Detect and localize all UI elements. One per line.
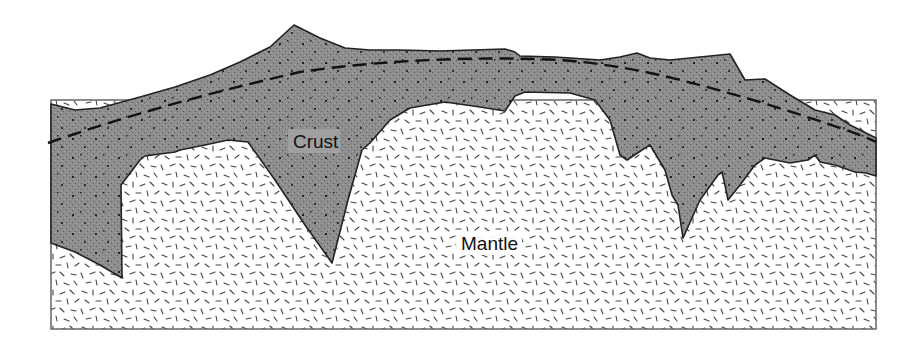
crust-label: Crust: [293, 131, 339, 152]
crust-mantle-cross-section: Crust Mantle: [0, 0, 916, 354]
mantle-label: Mantle: [461, 233, 518, 254]
